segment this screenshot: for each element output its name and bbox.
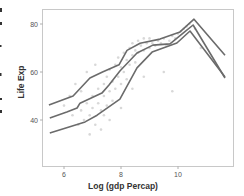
scatter-point (163, 71, 166, 74)
scatter-point (63, 104, 66, 107)
scatter-point (120, 83, 123, 86)
y-axis-title: Life Exp (16, 65, 26, 98)
scatter-point (128, 64, 131, 67)
scatter-point (143, 76, 146, 79)
scatter-point (100, 128, 103, 131)
scatter-point (97, 102, 100, 105)
scatter-point (171, 90, 174, 93)
x-axis-title: Log (gdp Percap) (88, 181, 158, 191)
scatter-point (94, 64, 97, 67)
scatter-point (151, 42, 154, 45)
scatter-point (134, 49, 137, 52)
left-edge-fragments (0, 8, 2, 113)
scatter-point (137, 40, 140, 43)
scatter-point (88, 114, 91, 117)
scatter-point (103, 114, 106, 117)
scatter-point (148, 37, 151, 40)
scatter-point (103, 95, 106, 98)
scatter-point (120, 107, 123, 110)
scatter-point (86, 102, 89, 105)
scatter-point (125, 78, 128, 81)
scatter-point (103, 83, 106, 86)
y-axis-ticks: 406080 (30, 21, 42, 124)
x-tick-label: 8 (119, 171, 123, 178)
scatter-point (117, 56, 120, 59)
scatter-point (168, 40, 171, 43)
x-tick-label: 10 (174, 171, 182, 178)
scatter-point (86, 71, 89, 74)
scatter-point (94, 124, 97, 127)
plot-frame (43, 10, 234, 167)
scatter-point (131, 42, 134, 45)
scatter-point (117, 76, 120, 79)
scatter-point (106, 104, 109, 107)
scatter-point (74, 83, 77, 86)
scatter-point (108, 119, 111, 122)
scatter-point (88, 133, 91, 136)
y-tick-label: 60 (30, 69, 38, 76)
scatter-point (111, 100, 114, 103)
scatter-point (131, 88, 134, 91)
scatter-point (80, 90, 83, 93)
scatter-point (108, 90, 111, 93)
chart: 406080 6810 Log (gdp Percap) Life Exp (0, 0, 244, 196)
scatter-point (125, 59, 128, 62)
scatter-point (71, 114, 74, 117)
scatter-point (91, 107, 94, 110)
scatter-point (123, 71, 126, 74)
scatter-point (83, 119, 86, 122)
scatter-point (106, 76, 109, 79)
scatter-point (97, 88, 100, 91)
scatter-point (143, 37, 146, 40)
y-tick-label: 80 (30, 21, 38, 28)
scatter-point (80, 109, 83, 112)
x-axis-ticks: 6810 (62, 167, 182, 179)
x-tick-label: 6 (62, 171, 66, 178)
scatter-point (114, 88, 117, 91)
scatter-point (134, 61, 137, 64)
scatter-point (140, 44, 143, 47)
y-tick-label: 40 (30, 117, 38, 124)
